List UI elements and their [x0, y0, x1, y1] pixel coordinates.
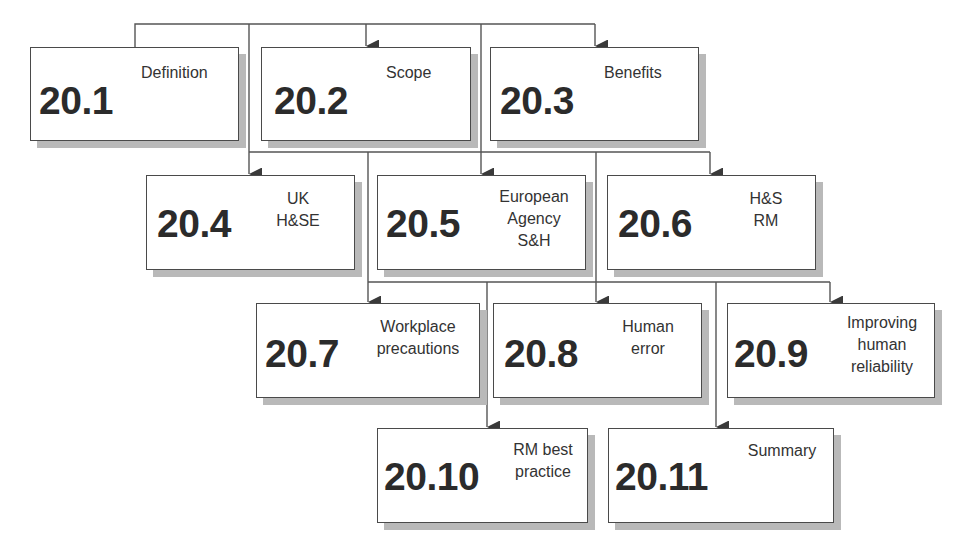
section-title: UK H&SE: [269, 188, 327, 232]
section-number: 20.2: [274, 81, 348, 120]
section-number: 20.4: [157, 204, 231, 243]
section-title: Benefits: [604, 62, 662, 84]
section-number: 20.10: [384, 457, 479, 496]
section-title: Human error: [618, 316, 678, 360]
node-20-9: 20.9 Improving human reliability: [727, 303, 935, 398]
section-title: Summary: [735, 440, 829, 462]
section-title: Scope: [386, 62, 431, 84]
node-20-11: 20.11 Summary: [608, 428, 834, 523]
section-number: 20.5: [386, 204, 460, 243]
node-20-3: 20.3 Benefits: [490, 47, 699, 141]
section-title: Improving human reliability: [834, 312, 930, 378]
section-number: 20.11: [615, 457, 708, 496]
node-20-7: 20.7 Workplace precautions: [256, 303, 480, 398]
section-title: H&S RM: [736, 188, 796, 232]
node-20-1: 20.1 Definition: [30, 47, 239, 141]
section-title: Definition: [141, 62, 208, 84]
section-title: Workplace precautions: [362, 316, 474, 360]
section-title: RM best practice: [504, 439, 582, 483]
node-20-4: 20.4 UK H&SE: [146, 175, 355, 270]
node-20-5: 20.5 European Agency S&H: [377, 175, 586, 270]
section-number: 20.7: [265, 334, 339, 373]
node-20-6: 20.6 H&S RM: [607, 175, 816, 270]
node-20-10: 20.10 RM best practice: [377, 428, 588, 523]
node-20-8: 20.8 Human error: [493, 303, 702, 398]
section-number: 20.1: [39, 81, 113, 120]
section-number: 20.8: [504, 334, 578, 373]
section-number: 20.9: [734, 334, 808, 373]
section-number: 20.6: [618, 204, 692, 243]
node-20-2: 20.2 Scope: [261, 47, 471, 141]
section-roadmap-diagram: 20.1 Definition 20.2 Scope 20.3 Benefits…: [0, 0, 958, 550]
section-title: European Agency S&H: [486, 186, 582, 252]
section-number: 20.3: [500, 81, 574, 120]
